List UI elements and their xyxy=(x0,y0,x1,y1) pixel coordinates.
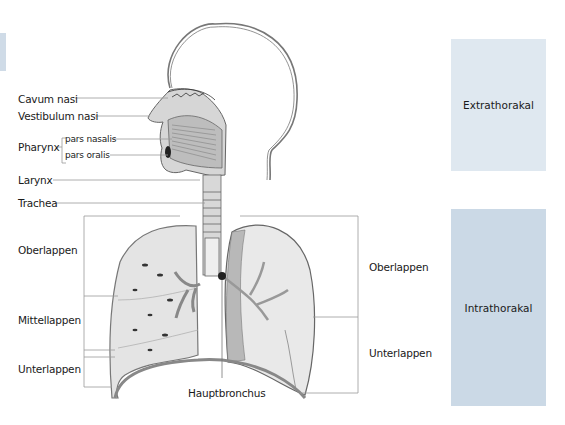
region-extrathorakal: Extrathorakal xyxy=(451,39,546,171)
label-pharynx: Pharynx xyxy=(18,141,59,153)
label-pars-oralis: pars oralis xyxy=(65,149,110,161)
region-intrathorakal-label: Intrathorakal xyxy=(465,302,533,314)
region-intrathorakal: Intrathorakal xyxy=(451,209,546,406)
label-oberlappen-right: Oberlappen xyxy=(369,261,429,273)
nasal-oral-cavity xyxy=(148,89,226,176)
label-pars-nasalis: pars nasalis xyxy=(65,133,116,145)
label-hauptbronchus: Hauptbronchus xyxy=(188,387,266,399)
label-mittellappen-left: Mittellappen xyxy=(18,314,81,326)
region-extrathorakal-label: Extrathorakal xyxy=(463,99,534,111)
right-lung xyxy=(110,226,200,398)
label-unterlappen-left: Unterlappen xyxy=(18,363,81,375)
label-unterlappen-right: Unterlappen xyxy=(369,347,432,359)
label-larynx: Larynx xyxy=(18,174,52,186)
trachea xyxy=(203,175,221,276)
label-oberlappen-left: Oberlappen xyxy=(18,244,78,256)
label-cavum-nasi: Cavum nasi xyxy=(18,93,78,105)
label-trachea: Trachea xyxy=(18,197,58,209)
label-vestibulum-nasi: Vestibulum nasi xyxy=(18,110,98,122)
